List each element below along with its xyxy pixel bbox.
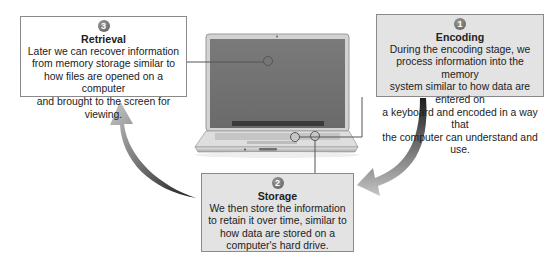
step-1-badge: 1 [454, 18, 466, 30]
encoding-description: During the encoding stage, we process in… [377, 44, 543, 157]
laptop-icon [195, 34, 359, 158]
storage-description: We then store the information to retain … [202, 203, 353, 253]
encoding-title: Encoding [377, 31, 543, 44]
step-2-badge: 2 [272, 177, 284, 189]
retrieval-box: 3 Retrieval Later we can recover informa… [20, 16, 187, 97]
retrieval-description: Later we can recover information from me… [21, 46, 186, 122]
encoding-box: 1 Encoding During the encoding stage, we… [376, 14, 544, 97]
storage-title: Storage [202, 190, 353, 203]
storage-box: 2 Storage We then store the information … [201, 173, 354, 252]
step-3-badge: 3 [98, 20, 110, 32]
retrieval-title: Retrieval [21, 33, 186, 46]
